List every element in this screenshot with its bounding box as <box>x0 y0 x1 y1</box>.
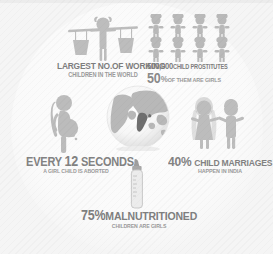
stat-child-prostitutes-sublabel: OF THEM ARE GIRLS <box>168 76 221 83</box>
stat-child-prostitutes-line2: 50%OF THEM ARE GIRLS <box>147 71 259 86</box>
stat-malnutrition-line2: CHILDREN ARE GIRLS <box>80 224 198 230</box>
stat-abortion-prefix: EVERY <box>26 155 62 168</box>
stat-working-children-line1: LARGEST NO.OF WORKING <box>57 61 149 71</box>
water-carrying-child-icon <box>60 14 146 62</box>
bride-and-groom-icon <box>185 96 247 150</box>
stat-child-marriages: 40% CHILD MARRIAGES HAPPEN IN INDIA <box>168 155 272 174</box>
stat-child-prostitutes-label: CHILD PROSTITUTES <box>173 63 227 70</box>
stat-child-marriages-value: 40% <box>168 154 191 170</box>
stat-malnutrition-value: 75% <box>81 208 105 224</box>
infographic-canvas: LARGEST NO.OF WORKING CHILDREN IN THE WO… <box>0 0 273 254</box>
stat-child-marriages-line2: HAPPEN IN INDIA <box>168 169 272 175</box>
stat-child-prostitutes-percent: 50 <box>147 70 161 86</box>
people-group-icon <box>148 14 254 62</box>
stat-working-children-line2: CHILDREN IN THE WORLD <box>57 72 149 79</box>
stat-working-children: LARGEST NO.OF WORKING CHILDREN IN THE WO… <box>57 61 149 78</box>
stat-child-prostitutes: 500,000CHILD PROSTITUTES 50%OF THEM ARE … <box>147 62 259 84</box>
stat-abortion-suffix: SECONDS <box>81 155 134 168</box>
stat-child-marriages-line1: 40% CHILD MARRIAGES <box>168 155 272 169</box>
stat-malnutrition-line1: 75%MALNUTRITIONED <box>80 209 198 223</box>
stat-girl-child-abortion-line2: A GIRL CHILD IS ABORTED <box>26 169 126 175</box>
stat-child-marriages-label: CHILD MARRIAGES <box>194 157 272 168</box>
pregnant-woman-icon <box>40 92 92 154</box>
stat-child-prostitutes-line1: 500,000CHILD PROSTITUTES <box>147 62 259 71</box>
stat-malnutrition-label: MALNUTRITIONED <box>105 209 197 222</box>
stat-malnutrition: 75%MALNUTRITIONED CHILDREN ARE GIRLS <box>80 209 198 229</box>
stat-girl-child-abortion: EVERY 12 SECONDS A GIRL CHILD IS ABORTED <box>26 155 126 175</box>
top-edge-bar <box>0 0 273 3</box>
globe-icon <box>100 83 176 151</box>
percent-sign: % <box>161 74 168 84</box>
